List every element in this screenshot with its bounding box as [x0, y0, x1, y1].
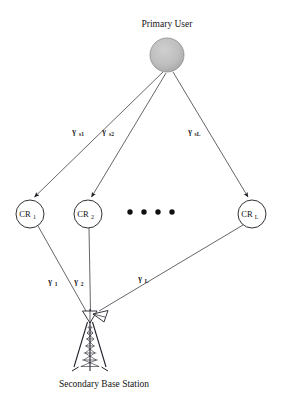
cr-node-2-subscript: 2	[91, 214, 94, 220]
gamma-1-label: γ 1	[47, 277, 58, 287]
cr-node-L[interactable]: CR L	[238, 200, 266, 228]
downlink-edge-group	[38, 225, 243, 311]
edge-crL-to-bs	[99, 225, 243, 311]
gamma-2-subscript: 2	[81, 281, 84, 287]
gamma-s1-subscript: s1	[79, 131, 84, 137]
edge-pu-to-crL	[173, 72, 248, 197]
ellipsis-dot-4	[169, 209, 174, 214]
cr-node-1-label: CR	[19, 209, 31, 219]
ellipsis-dot-1	[127, 209, 132, 214]
gamma-1-symbol: γ	[47, 277, 52, 286]
cr-node-1-subscript: 1	[33, 214, 36, 220]
network-diagram-canvas: Primary User CR 1 CR 2 CR L	[0, 0, 282, 401]
gamma-L-subscript: L	[145, 278, 149, 284]
gamma-L-symbol: γ	[137, 274, 142, 283]
downlink-label-group: γ 1 γ 2 γ L	[47, 274, 149, 287]
cr-node-L-subscript: L	[255, 214, 259, 220]
gamma-sL-label: γ sL	[187, 127, 201, 137]
primary-user-node[interactable]	[150, 38, 184, 72]
uplink-label-group: γ s1 γ s2 γ sL	[71, 127, 201, 137]
gamma-2-symbol: γ	[73, 277, 78, 286]
cr-node-group: CR 1 CR 2 CR L	[16, 200, 266, 228]
gamma-s1-symbol: γ	[71, 127, 76, 136]
gamma-2-label: γ 2	[73, 277, 84, 287]
gamma-s2-symbol: γ	[101, 127, 106, 136]
edge-cr2-to-bs	[89, 228, 91, 311]
gamma-s2-subscript: s2	[109, 131, 114, 137]
ellipsis-dots	[127, 209, 174, 214]
secondary-base-station-label: Secondary Base Station	[59, 379, 149, 389]
cr-node-2-label: CR	[77, 209, 89, 219]
gamma-s1-label: γ s1	[71, 127, 84, 137]
tower-base-feet	[72, 366, 108, 371]
edge-pu-to-cr1	[35, 72, 164, 197]
primary-user-label: Primary User	[142, 19, 194, 29]
ellipsis-dot-2	[141, 209, 146, 214]
cr-node-L-label: CR	[241, 209, 253, 219]
diagram-root: Primary User CR 1 CR 2 CR L	[0, 0, 282, 401]
gamma-s2-label: γ s2	[101, 127, 114, 137]
gamma-1-subscript: 1	[55, 281, 58, 287]
ellipsis-dot-3	[155, 209, 160, 214]
cr-node-2[interactable]: CR 2	[74, 200, 102, 228]
uplink-edge-group	[35, 72, 249, 197]
gamma-sL-symbol: γ	[187, 127, 192, 136]
gamma-sL-subscript: sL	[195, 131, 201, 137]
edge-cr1-to-bs	[38, 226, 86, 311]
gamma-L-label: γ L	[137, 274, 149, 284]
primary-user-group[interactable]: Primary User	[142, 19, 194, 72]
secondary-base-station[interactable]: Secondary Base Station	[59, 309, 149, 389]
cr-node-1[interactable]: CR 1	[16, 200, 44, 228]
